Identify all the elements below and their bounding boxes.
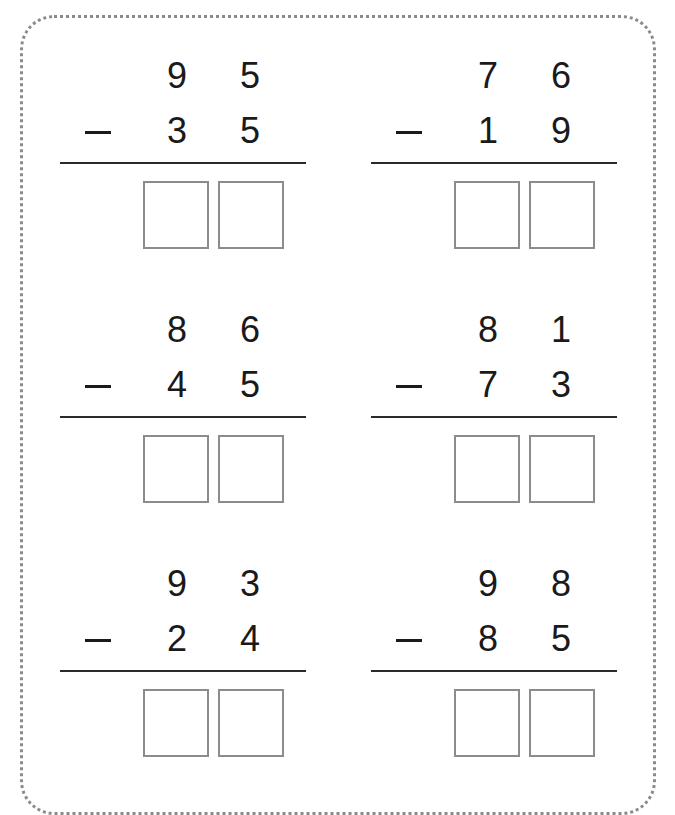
minuend-ones-digit: 8 [541,564,581,604]
answer-box-tens[interactable] [143,689,209,757]
minus-sign-icon [85,639,111,642]
subtrahend-tens-digit: 1 [468,111,508,151]
answer-box-ones[interactable] [529,689,595,757]
answer-box-ones[interactable] [529,181,595,249]
minuend-tens-digit: 7 [468,56,508,96]
minuend-ones-digit: 3 [230,564,270,604]
minuend-tens-digit: 9 [468,564,508,604]
minus-sign-icon [396,639,422,642]
minuend-tens-digit: 8 [157,310,197,350]
subtraction-problem-3: 8 6 4 5 [60,270,320,470]
answer-box-ones[interactable] [218,689,284,757]
answer-box-ones[interactable] [218,181,284,249]
subtraction-problem-6: 9 8 8 5 [371,524,631,724]
minuend-ones-digit: 5 [230,56,270,96]
minuend-tens-digit: 8 [468,310,508,350]
answer-box-tens[interactable] [454,181,520,249]
subtrahend-ones-digit: 5 [541,619,581,659]
minuend-ones-digit: 6 [541,56,581,96]
minuend-ones-digit: 6 [230,310,270,350]
answer-divider-line [60,416,306,418]
minuend-tens-digit: 9 [157,56,197,96]
answer-box-ones[interactable] [218,435,284,503]
subtrahend-tens-digit: 4 [157,365,197,405]
answer-divider-line [371,416,617,418]
subtraction-problem-4: 8 1 7 3 [371,270,631,470]
subtrahend-tens-digit: 2 [157,619,197,659]
subtrahend-tens-digit: 3 [157,111,197,151]
subtrahend-ones-digit: 5 [230,111,270,151]
answer-box-ones[interactable] [529,435,595,503]
answer-divider-line [60,162,306,164]
minuend-tens-digit: 9 [157,564,197,604]
subtrahend-ones-digit: 3 [541,365,581,405]
subtrahend-ones-digit: 9 [541,111,581,151]
minus-sign-icon [85,131,111,134]
answer-box-tens[interactable] [454,689,520,757]
subtrahend-tens-digit: 8 [468,619,508,659]
subtrahend-ones-digit: 5 [230,365,270,405]
minuend-ones-digit: 1 [541,310,581,350]
answer-box-tens[interactable] [143,435,209,503]
answer-divider-line [371,670,617,672]
answer-box-tens[interactable] [143,181,209,249]
subtraction-problem-5: 9 3 2 4 [60,524,320,724]
minus-sign-icon [396,385,422,388]
answer-divider-line [60,670,306,672]
answer-box-tens[interactable] [454,435,520,503]
minus-sign-icon [396,131,422,134]
subtrahend-ones-digit: 4 [230,619,270,659]
minus-sign-icon [85,385,111,388]
answer-divider-line [371,162,617,164]
subtraction-problem-1: 9 5 3 5 [60,16,320,216]
subtrahend-tens-digit: 7 [468,365,508,405]
subtraction-problem-2: 7 6 1 9 [371,16,631,216]
